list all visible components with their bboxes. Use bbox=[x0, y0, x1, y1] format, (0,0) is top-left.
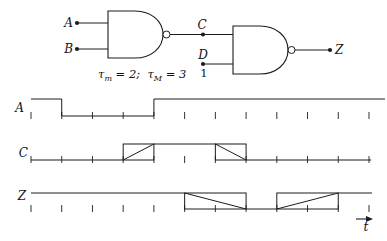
waveform-label-A: A bbox=[14, 101, 24, 115]
output-z-label: Z bbox=[334, 43, 344, 57]
waveform-label-C: C bbox=[19, 146, 28, 160]
net-c-label: C bbox=[197, 18, 206, 32]
time-axis: t bbox=[356, 216, 373, 234]
uncertainty-diagonal bbox=[215, 144, 246, 160]
circuit-schematic: A B C D 1 Z τm = 2; τM = 3 bbox=[63, 11, 344, 83]
input-a-label: A bbox=[63, 16, 73, 30]
output-z-terminal-dot bbox=[328, 48, 332, 52]
figure-page: A B C D 1 Z τm = 2; τM = 3 ACZ t bbox=[0, 0, 387, 241]
waveform-label-Z: Z bbox=[17, 189, 27, 203]
net-c-junction-dot bbox=[201, 32, 205, 36]
delay-annotation: τm = 2; τM = 3 bbox=[98, 67, 186, 83]
waveform-row-C: C bbox=[19, 144, 371, 163]
timing-diagram: ACZ bbox=[14, 99, 385, 212]
input-a-terminal-dot bbox=[75, 21, 79, 25]
nand-gate-2 bbox=[233, 26, 295, 74]
nand-gate-1-inversion-bubble bbox=[163, 31, 170, 38]
nand-gate-1-body bbox=[108, 11, 163, 58]
input-b-terminal-dot bbox=[75, 47, 79, 51]
input-b-label: B bbox=[63, 42, 73, 56]
nand-gate-1 bbox=[108, 11, 170, 58]
nand-gate-2-inversion-bubble bbox=[288, 47, 295, 54]
logic-timing-figure: A B C D 1 Z τm = 2; τM = 3 ACZ t bbox=[0, 0, 387, 241]
input-d-label: D bbox=[197, 48, 208, 62]
waveform-row-Z: Z bbox=[17, 189, 372, 212]
waveform-row-A: A bbox=[14, 99, 385, 119]
time-axis-label: t bbox=[364, 220, 369, 234]
input-d-constant-value: 1 bbox=[200, 66, 207, 80]
nand-gate-2-body bbox=[233, 26, 288, 74]
uncertainty-diagonal bbox=[123, 144, 154, 160]
